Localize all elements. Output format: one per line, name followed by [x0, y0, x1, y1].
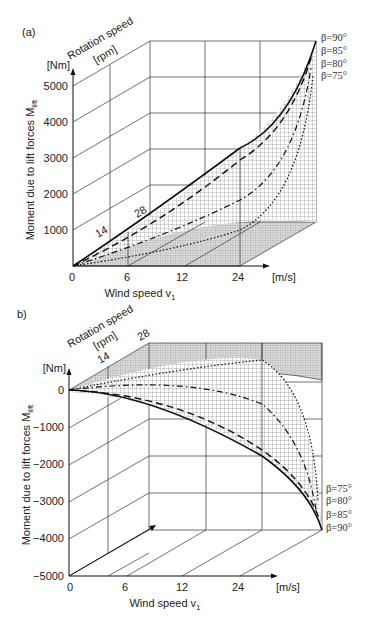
y-tick: 3000: [44, 152, 68, 164]
legend-item: β=85°: [321, 45, 347, 56]
x-tick: 0: [69, 271, 75, 283]
legend-item: β=90°: [326, 522, 352, 533]
y-tick: −5000: [33, 570, 64, 582]
y-tick: −1000: [33, 421, 64, 433]
panel-b: b): [17, 302, 352, 612]
x-tick: 0: [67, 581, 73, 593]
x-axis-label: Wind speed v1: [129, 597, 201, 612]
legend-item: β=80°: [321, 58, 347, 69]
y-tick: 0: [58, 384, 64, 396]
z-tick: 28: [132, 203, 149, 220]
y-tick: −3000: [33, 495, 64, 507]
x-unit: [m/s]: [272, 271, 296, 283]
z-tick: 14: [95, 349, 112, 366]
legend-item: β=85°: [326, 509, 352, 520]
z-tick: 28: [135, 326, 152, 343]
panel-a-legend: β=90° β=85° β=80° β=75°: [321, 32, 347, 81]
panel-b-label: b): [17, 308, 27, 320]
y-tick: −2000: [33, 458, 64, 470]
panel-b-x-arrow-icon: [271, 574, 278, 579]
panel-a: (a): [22, 14, 347, 302]
panel-b-legend: β=75° β=80° β=85° β=90°: [326, 483, 352, 533]
x-tick: 24: [232, 581, 244, 593]
y-tick: 2000: [44, 188, 68, 200]
y-unit: [Nm]: [43, 362, 66, 374]
panel-b-z-axis: [69, 527, 153, 576]
x-tick: 24: [232, 271, 244, 283]
x-tick: 12: [176, 271, 188, 283]
x-axis-label: Wind speed v1: [104, 287, 176, 302]
x-unit: [m/s]: [276, 581, 300, 593]
legend-item: β=75°: [326, 483, 352, 494]
panel-a-label: (a): [22, 26, 35, 38]
y-tick: 4000: [44, 116, 68, 128]
x-tick: 6: [122, 581, 128, 593]
x-tick: 12: [176, 581, 188, 593]
legend-item: β=80°: [326, 495, 352, 506]
panel-a-y-arrow-icon: [71, 68, 76, 75]
z-tick: 14: [93, 223, 110, 240]
y-axis-label: Moment due to lift forces Mlift: [24, 99, 39, 240]
panel-b-y-arrow-icon: [67, 368, 72, 375]
y-tick: 5000: [44, 80, 68, 92]
legend-item: β=75°: [321, 70, 347, 81]
x-tick: 6: [124, 271, 130, 283]
figure: (a): [0, 0, 371, 629]
y-tick: −4000: [33, 532, 64, 544]
panel-b-surface: [69, 358, 322, 530]
legend-item: β=90°: [321, 32, 347, 43]
y-unit: [Nm]: [47, 59, 70, 71]
panel-a-x-arrow-icon: [263, 264, 270, 269]
y-tick: 1000: [44, 224, 68, 236]
